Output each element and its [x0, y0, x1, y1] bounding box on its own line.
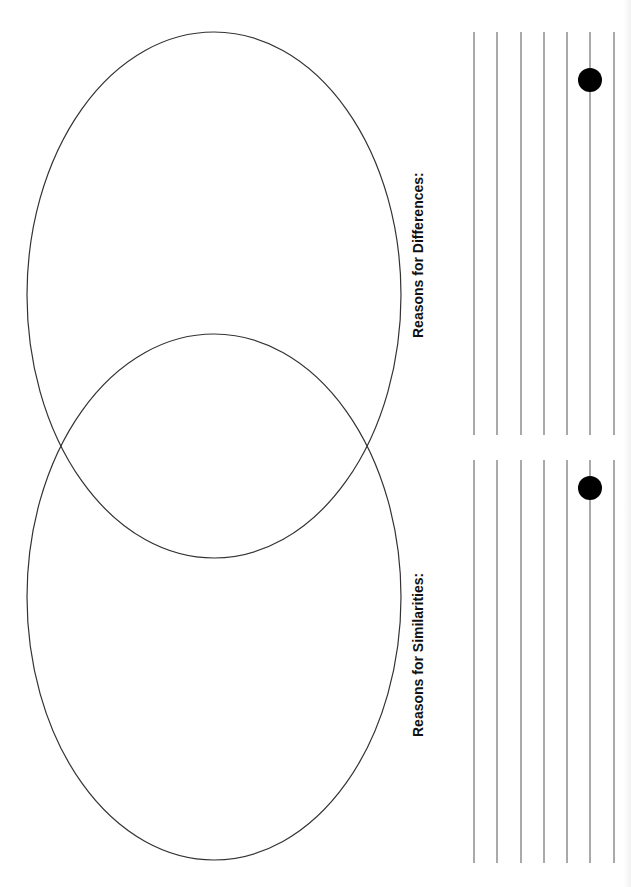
worksheet-page: Reasons for Differences: Reasons for Sim… — [0, 0, 631, 887]
differences-lines-group — [474, 32, 614, 435]
reasons-for-similarities-heading: Reasons for Similarities: — [410, 573, 426, 737]
page-edge-shadow — [623, 0, 631, 887]
similarities-lines-group — [474, 460, 614, 863]
writing-lines-area — [0, 0, 631, 887]
bullet-dot-icon — [578, 68, 602, 92]
reasons-for-differences-heading: Reasons for Differences: — [410, 172, 426, 338]
bullet-dot-icon — [578, 476, 602, 500]
